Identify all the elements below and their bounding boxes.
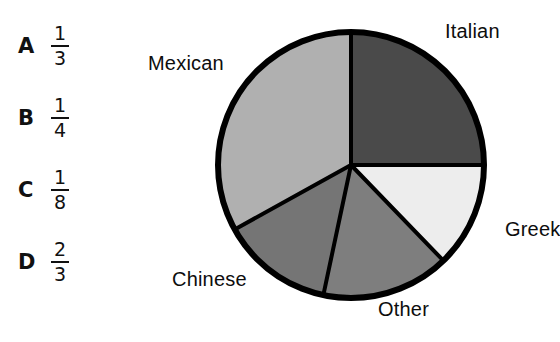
- answer-choice-letter: A: [18, 36, 44, 57]
- answer-choice-d[interactable]: D 2 3: [18, 234, 69, 290]
- answer-choice-c[interactable]: C 1 8: [18, 162, 69, 218]
- fraction-denominator: 3: [51, 263, 69, 285]
- answer-choice-letter: D: [18, 252, 44, 273]
- fraction-denominator: 4: [51, 119, 69, 141]
- pie-label-chinese: Chinese: [172, 268, 247, 291]
- pie-label-mexican: Mexican: [148, 52, 224, 75]
- answer-choice-b[interactable]: B 1 4: [18, 90, 69, 146]
- pie-label-greek: Greek: [505, 218, 560, 241]
- fraction-denominator: 3: [51, 47, 69, 69]
- answer-choice-fraction: 1 4: [51, 95, 69, 140]
- fraction-numerator: 1: [51, 167, 69, 189]
- answer-choice-fraction: 2 3: [51, 239, 69, 284]
- pie-chart-svg: [200, 0, 553, 342]
- fraction-numerator: 1: [51, 23, 69, 45]
- pie-chart: Mexican Italian Greek Other Chinese: [200, 0, 553, 342]
- fraction-denominator: 8: [51, 191, 69, 213]
- answer-choice-letter: B: [18, 108, 44, 129]
- answer-choice-letter: C: [18, 180, 44, 201]
- answer-choices-list: A 1 3 B 1 4 C 1 8 D: [18, 8, 138, 334]
- fraction-numerator: 2: [51, 239, 69, 261]
- answer-choice-fraction: 1 8: [51, 167, 69, 212]
- pie-label-italian: Italian: [445, 20, 500, 43]
- pie-label-other: Other: [378, 298, 429, 321]
- answer-choice-a[interactable]: A 1 3: [18, 18, 69, 74]
- fraction-numerator: 1: [51, 95, 69, 117]
- answer-choice-fraction: 1 3: [51, 23, 69, 68]
